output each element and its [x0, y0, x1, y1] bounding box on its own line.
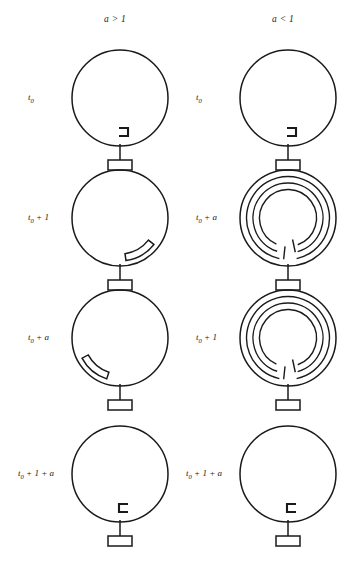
- base-box: [276, 400, 300, 410]
- spiral-end-cap: [293, 240, 296, 253]
- spiral-glyph: [253, 303, 323, 372]
- base-box: [108, 536, 132, 546]
- cell-right-r4: [206, 422, 356, 564]
- cell-right-r3: [206, 286, 356, 428]
- thick-arc-glyph: [125, 240, 154, 260]
- cell-left-r3: [38, 286, 202, 428]
- column-header-right: a < 1: [272, 14, 294, 24]
- loop-circle: [240, 170, 336, 266]
- column-header-left: a > 1: [104, 14, 126, 24]
- base-box: [276, 536, 300, 546]
- bracket-left-glyph: [287, 504, 296, 512]
- loop-circle: [72, 170, 168, 266]
- bracket-right-glyph: [287, 128, 296, 136]
- spiral-end-cap: [293, 360, 296, 373]
- row-label-left-r1: t0: [28, 92, 34, 104]
- loop-circle: [240, 290, 336, 386]
- base-box: [108, 400, 132, 410]
- loop-circle: [72, 290, 168, 386]
- spiral-glyph: [259, 310, 316, 365]
- spiral-glyph: [253, 183, 323, 252]
- cell-drawing-left-r3: [38, 286, 202, 428]
- spiral-end-cap: [284, 246, 285, 259]
- loop-circle: [240, 50, 336, 146]
- loop-circle: [72, 50, 168, 146]
- bracket-left-glyph: [119, 504, 128, 512]
- figure-canvas: a > 1 a < 1 t0t0t0 + 1t0 + at0 + at0 + 1…: [0, 0, 356, 569]
- cell-drawing-left-r4: [38, 422, 202, 564]
- thick-arc-glyph: [82, 355, 109, 379]
- spiral-glyph: [259, 190, 316, 245]
- spiral-end-cap: [284, 366, 285, 379]
- cell-left-r4: [38, 422, 202, 564]
- bracket-right-glyph: [119, 128, 128, 136]
- cell-drawing-right-r3: [206, 286, 356, 428]
- cell-drawing-right-r4: [206, 422, 356, 564]
